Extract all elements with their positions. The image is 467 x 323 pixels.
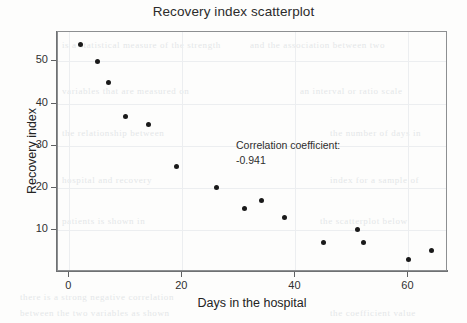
y-tick-mark	[51, 103, 56, 104]
y-axis-label: Recovery index	[25, 71, 39, 231]
x-axis-label: Days in the hospital	[57, 296, 447, 310]
x-tick-label: 0	[48, 279, 88, 291]
x-tick-mark	[407, 272, 408, 277]
y-tick-mark	[51, 229, 56, 230]
x-tick-label: 40	[274, 279, 314, 291]
data-point	[242, 206, 247, 211]
scatterplot-figure: is a statistical measure of the strength…	[0, 0, 467, 323]
correlation-annotation: Correlation coefficient: -0.941	[236, 138, 340, 168]
x-tick-mark	[294, 272, 295, 277]
y-tick-mark	[51, 60, 56, 61]
data-point	[355, 227, 360, 232]
gridline-horizontal	[58, 230, 446, 231]
annotation-line-1: Correlation coefficient:	[236, 138, 340, 153]
data-point	[282, 215, 287, 220]
x-tick-mark	[68, 272, 69, 277]
data-point	[78, 42, 83, 47]
data-point	[259, 198, 264, 203]
x-tick-label: 20	[161, 279, 201, 291]
data-point	[321, 240, 326, 245]
data-point	[146, 122, 151, 127]
gridline-horizontal	[58, 104, 446, 105]
annotation-line-2: -0.941	[236, 153, 340, 168]
y-tick-mark	[51, 145, 56, 146]
gridline-vertical	[69, 32, 70, 270]
data-point	[214, 185, 219, 190]
data-point	[123, 114, 128, 119]
gridline-vertical	[408, 32, 409, 270]
chart-title: Recovery index scatterplot	[0, 4, 467, 19]
gridline-horizontal	[58, 61, 446, 62]
x-tick-label: 60	[387, 279, 427, 291]
data-point	[361, 240, 366, 245]
data-point	[174, 164, 179, 169]
data-point	[95, 59, 100, 64]
gridline-horizontal	[58, 188, 446, 189]
data-point	[106, 80, 111, 85]
x-tick-mark	[181, 272, 182, 277]
data-point	[406, 257, 411, 262]
data-point	[429, 248, 434, 253]
gridline-vertical	[182, 32, 183, 270]
y-tick-mark	[51, 187, 56, 188]
y-tick-label: 50	[18, 53, 48, 65]
